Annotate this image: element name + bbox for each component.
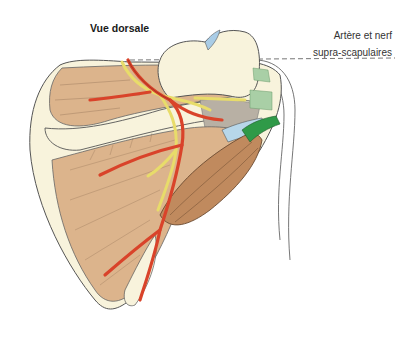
label-artery-nerve-line1: Artère et nerf (334, 30, 392, 41)
label-artery-nerve-line2: supra-scapulaires (313, 47, 392, 58)
anatomy-figure: Vue dorsale Artère et nerf supra-scapula… (0, 0, 408, 347)
figure-title: Vue dorsale (90, 22, 149, 34)
